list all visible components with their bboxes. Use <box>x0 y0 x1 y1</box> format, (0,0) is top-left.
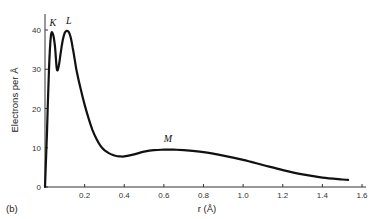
x-axis-label: r (Å) <box>198 203 216 214</box>
y-tick-label: 0 <box>37 183 42 192</box>
y-tick-label: 30 <box>32 65 41 74</box>
x-ticks: 0.20.40.60.81.01.21.41.6 <box>79 184 368 200</box>
y-tick-label: 40 <box>32 26 41 35</box>
peak-annotations: KLM <box>49 15 173 144</box>
axes <box>45 14 366 187</box>
x-tick-label: 0.8 <box>198 191 210 200</box>
y-axis-label: Electrons per Å <box>9 67 20 133</box>
x-tick-label: 1.4 <box>317 191 329 200</box>
radial-distribution-chart: 010203040 0.20.40.60.81.01.21.41.6 KLM E… <box>0 0 382 219</box>
x-tick-label: 0.2 <box>79 191 91 200</box>
y-tick-label: 20 <box>32 105 41 114</box>
x-tick-label: 1.6 <box>356 191 368 200</box>
x-tick-label: 1.0 <box>238 191 250 200</box>
x-tick-label: 1.2 <box>277 191 289 200</box>
y-tick-label: 10 <box>32 144 41 153</box>
data-curve <box>45 31 348 187</box>
panel-label: (b) <box>6 203 18 214</box>
peak-label-k: K <box>49 17 58 28</box>
x-tick-label: 0.4 <box>119 191 131 200</box>
x-tick-label: 0.6 <box>158 191 170 200</box>
peak-label-m: M <box>163 133 173 144</box>
peak-label-l: L <box>65 15 72 26</box>
